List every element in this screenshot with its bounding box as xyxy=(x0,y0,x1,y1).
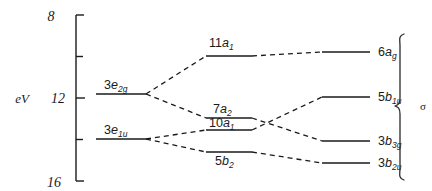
level-label-10a1-symbol: a xyxy=(223,116,230,130)
level-label-3b2u-symbol: b xyxy=(385,156,392,170)
level-label-6ag-prefix: 6 xyxy=(378,45,385,59)
level-label-11a1-sub: 1 xyxy=(229,42,234,52)
level-label-3e1u: 3e1u xyxy=(104,123,128,139)
axis-tick-label-16: 16 xyxy=(47,175,61,190)
level-label-5b2-symbol: b xyxy=(222,154,229,168)
level-label-3e1u-prefix: 3 xyxy=(104,123,111,137)
level-label-3b2u: 3b2u xyxy=(378,156,402,172)
level-label-11a1: 11a1 xyxy=(209,36,234,52)
correlation-11a1-to-6ag xyxy=(252,52,322,56)
level-label-5b1u-prefix: 5 xyxy=(378,90,385,104)
level-label-3e2g-symbol: e xyxy=(111,78,118,92)
level-label-10a1-sub: 1 xyxy=(230,122,235,132)
level-label-3e2g: 3e2g xyxy=(104,78,128,94)
level-label-6ag: 6ag xyxy=(378,45,397,61)
axis-tick-label-12: 12 xyxy=(51,91,65,106)
level-label-3b2u-prefix: 3 xyxy=(378,156,385,170)
level-label-6ag-sub: g xyxy=(392,51,397,61)
sigma-brace-group: σ xyxy=(395,34,426,180)
column-left-levels: 3e2g 3e1u xyxy=(96,78,146,139)
correlation-10a1-to-5b1u xyxy=(252,97,322,130)
correlation-3e1u-to-5b2 xyxy=(146,139,206,152)
level-label-3b3g: 3b3g xyxy=(378,134,402,150)
level-label-7a2-prefix: 7 xyxy=(213,102,220,116)
level-label-3b3g-prefix: 3 xyxy=(378,134,385,148)
column-middle-levels: 11a1 7a2 10a1 5b2 xyxy=(206,36,252,170)
level-label-3e1u-symbol: e xyxy=(111,123,118,137)
level-label-3e1u-sub: 1u xyxy=(118,129,128,139)
axis-title-ev: eV xyxy=(15,91,31,106)
level-label-6ag-symbol: a xyxy=(385,45,392,59)
correlation-3e2g-to-11a1 xyxy=(146,56,206,94)
correlation-3e1u-to-10a1 xyxy=(146,130,206,139)
diagram-canvas: 8 12 16 eV 3e2g 3e1u xyxy=(0,0,432,191)
sigma-label: σ xyxy=(420,100,426,112)
level-label-5b2: 5b2 xyxy=(215,154,234,170)
correlation-7a2-to-3b3g xyxy=(252,118,322,141)
correlation-5b2-to-3b2u xyxy=(252,152,322,163)
level-label-10a1-prefix: 10 xyxy=(209,116,223,130)
level-label-3e2g-sub: 2g xyxy=(117,84,128,94)
axis-tick-label-8: 8 xyxy=(48,9,55,24)
energy-axis: 8 12 16 eV xyxy=(15,9,85,190)
level-label-11a1-symbol: a xyxy=(222,36,229,50)
level-label-7a2-symbol: a xyxy=(220,102,227,116)
correlation-3e2g-to-7a2 xyxy=(146,94,206,118)
mo-correlation-diagram: 8 12 16 eV 3e2g 3e1u xyxy=(0,0,432,191)
column-right-levels: 6ag 5b1u 3b3g 3b2u xyxy=(322,45,402,172)
level-label-3b3g-symbol: b xyxy=(385,134,392,148)
level-label-5b2-sub: 2 xyxy=(228,160,234,170)
level-label-3e2g-prefix: 3 xyxy=(104,78,111,92)
level-label-5b1u-symbol: b xyxy=(385,90,392,104)
correlation-lines xyxy=(146,52,322,163)
level-label-5b2-prefix: 5 xyxy=(215,154,222,168)
level-label-11a1-prefix: 11 xyxy=(209,36,222,50)
